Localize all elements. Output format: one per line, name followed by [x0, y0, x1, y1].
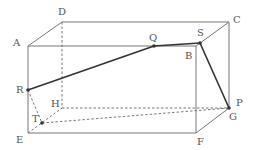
edge-FG [196, 108, 229, 133]
label-Q: Q [149, 33, 157, 43]
label-F: F [197, 137, 204, 147]
hidden-edges [28, 22, 229, 133]
point-R [26, 88, 30, 92]
label-E: E [16, 135, 23, 145]
label-G: G [229, 112, 237, 122]
point-T [40, 121, 44, 125]
label-D: D [58, 7, 66, 17]
diagram-svg [0, 0, 256, 150]
label-S: S [197, 28, 204, 38]
label-P: P [236, 98, 243, 108]
label-C: C [233, 15, 241, 25]
point-Q [152, 44, 156, 48]
label-T: T [32, 114, 39, 124]
label-H: H [51, 99, 60, 109]
label-B: B [185, 51, 192, 61]
label-R: R [16, 85, 24, 95]
segment-RQ [28, 46, 154, 90]
prism-diagram: A D Q S C B R H T E P G F [0, 0, 256, 150]
segment-SP [200, 43, 229, 108]
point-P [227, 106, 231, 110]
segment-TP [42, 108, 229, 123]
label-A: A [13, 38, 20, 48]
point-S [198, 41, 202, 45]
edge-AD [28, 22, 62, 46]
point-markers [26, 41, 231, 125]
